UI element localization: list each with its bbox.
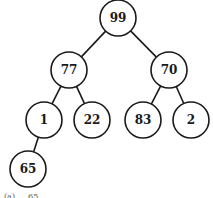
tree-node: 2 [173,102,209,138]
tree-node: 83 [125,102,161,138]
node-label: 70 [161,63,178,77]
tree-edge [131,31,157,57]
tree-node: 77 [51,52,87,88]
tree-edge [176,86,184,103]
node-label: 2 [187,113,195,127]
figure-caption: (a) … 65 [4,192,38,198]
tree-node: 70 [151,52,187,88]
node-label: 83 [135,113,152,127]
node-label: 99 [110,11,127,25]
tree-edge [34,137,39,152]
node-label: 65 [20,162,37,176]
tree-edge [151,86,160,104]
node-label: 77 [61,63,78,77]
node-label: 1 [40,113,48,127]
tree-node: 99 [100,0,136,36]
tree-node: 1 [26,102,62,138]
tree-edge [77,86,85,103]
tree-edge [81,31,105,57]
tree-diagram: 99777012283265 [0,0,213,198]
node-label: 22 [84,113,101,127]
tree-edge [52,86,61,104]
tree-node: 22 [74,102,110,138]
tree-node: 65 [10,151,46,187]
